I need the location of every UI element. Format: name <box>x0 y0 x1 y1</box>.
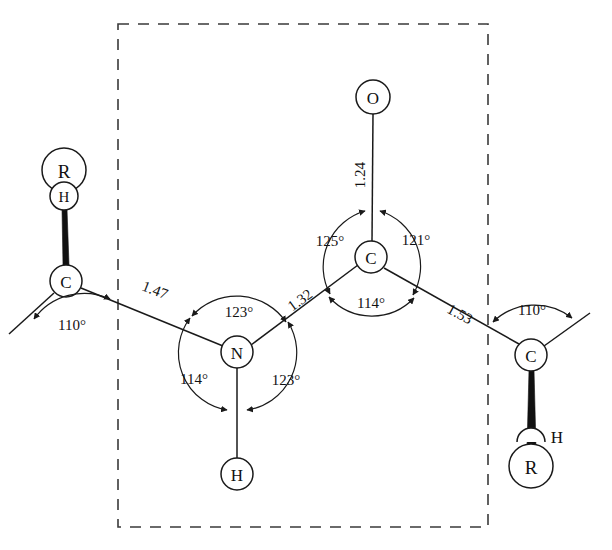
angle-label-123-lower: 123° <box>272 372 301 388</box>
atom-label-n: N <box>231 344 243 363</box>
bond-wedge-left-h-to-c <box>62 209 69 265</box>
bond-length-1-47: 1.47 <box>140 278 171 303</box>
angle-arc-110-left <box>34 293 110 319</box>
bond-length-1-53: 1.53 <box>445 301 476 328</box>
atom-label-c-carbonyl: C <box>365 249 376 268</box>
angle-label-123-upper: 123° <box>225 304 254 320</box>
angle-label-110-right: 110° <box>518 302 546 318</box>
angle-label-125: 125° <box>316 233 345 249</box>
diagram-canvas: R H C N H C O C R H 1.47 1.32 1.24 1.53 <box>0 0 612 550</box>
atom-label-c-alpha-right: C <box>525 347 536 366</box>
peptide-geometry-diagram: R H C N H C O C R H 1.47 1.32 1.24 1.53 <box>0 0 612 550</box>
atom-label-r-left: R <box>58 161 71 182</box>
angle-label-114-c: 114° <box>357 295 385 311</box>
atom-label-c-alpha-left: C <box>60 273 71 292</box>
angle-arc-114-n <box>178 318 227 410</box>
planar-group-dashed-box <box>118 24 488 527</box>
angle-label-114-n: 114° <box>180 371 208 387</box>
atom-label-r-right: R <box>525 457 538 478</box>
atom-label-o: O <box>367 89 379 108</box>
angle-arc-123-lower <box>247 322 297 410</box>
atom-h-right <box>517 428 545 442</box>
atom-label-h-left: H <box>59 189 70 205</box>
atom-label-h-right: H <box>551 428 563 447</box>
bond-length-1-24: 1.24 <box>352 161 368 188</box>
atom-label-h-amide: H <box>231 466 243 485</box>
bond-length-1-32: 1.32 <box>285 286 316 314</box>
bond-c-carbonyl-to-o <box>372 114 373 241</box>
bond-c-alpha-left-free <box>9 293 54 334</box>
angle-label-121: 121° <box>402 232 431 248</box>
angle-label-110-left: 110° <box>58 317 86 333</box>
bond-c-alpha-right-free <box>544 313 590 346</box>
